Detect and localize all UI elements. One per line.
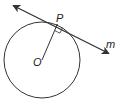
label-o: O <box>33 57 42 68</box>
label-p: P <box>56 13 63 24</box>
point-p-dot <box>56 24 58 26</box>
label-m: m <box>106 39 115 50</box>
